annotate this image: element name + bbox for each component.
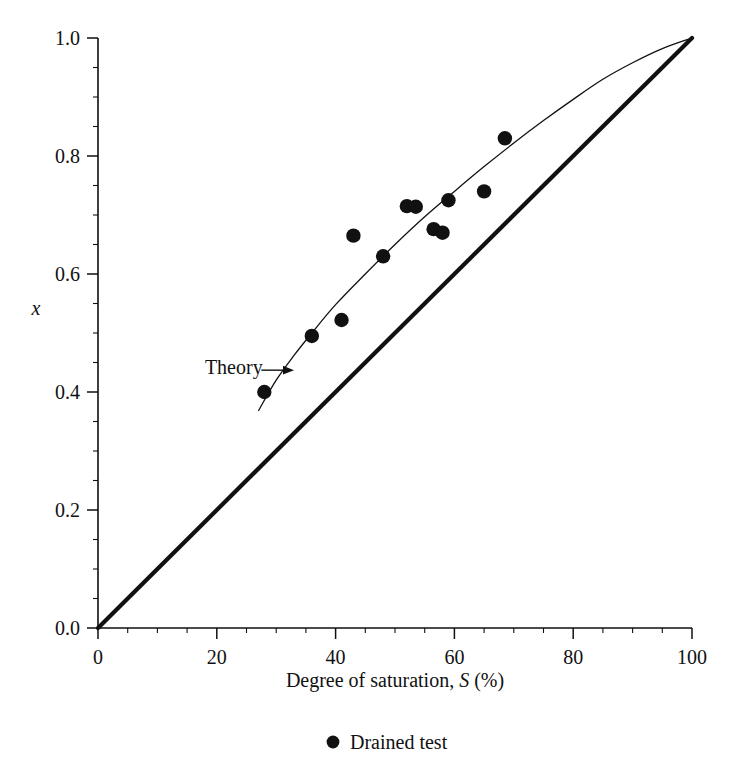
y-tick-label: 0.2 [55, 499, 80, 521]
data-point [305, 329, 319, 343]
theory-annotation-label: Theory [205, 356, 263, 379]
figure-container: 0204060801000.00.20.40.60.81.0 Theory De… [0, 0, 737, 774]
x-tick-label: 100 [677, 646, 707, 668]
data-point [498, 131, 512, 145]
x-axis-title-symbol: S [459, 669, 469, 691]
scatter-points-drained-test [257, 131, 512, 399]
legend: Drained test [327, 731, 448, 753]
data-point [435, 226, 449, 240]
x-tick-label: 80 [563, 646, 583, 668]
x-axis-title: Degree of saturation, S (%) [286, 669, 504, 692]
data-point [346, 228, 360, 242]
y-axis-title: x [31, 297, 41, 319]
x-axis-title-text: Degree of saturation, [286, 669, 459, 692]
y-tick-label: 0.0 [55, 617, 80, 639]
x-tick-label: 60 [444, 646, 464, 668]
x-axis-title-units: (%) [469, 669, 504, 692]
one-to-one-line [98, 38, 692, 628]
y-tick-label: 0.8 [55, 145, 80, 167]
legend-label-drained-test: Drained test [350, 731, 448, 753]
legend-marker-drained-test [327, 736, 340, 749]
y-tick-label: 0.4 [55, 381, 80, 403]
data-series [98, 38, 692, 628]
x-tick-label: 20 [207, 646, 227, 668]
theory-annotation-arrow-head [283, 366, 294, 375]
y-tick-label: 1.0 [55, 27, 80, 49]
scatter-chart: 0204060801000.00.20.40.60.81.0 Theory De… [0, 0, 737, 774]
data-point [334, 313, 348, 327]
y-tick-label: 0.6 [55, 263, 80, 285]
x-tick-label: 0 [93, 646, 103, 668]
data-point [477, 184, 491, 198]
x-tick-label: 40 [326, 646, 346, 668]
annotations: Theory [205, 356, 294, 379]
data-point [409, 200, 423, 214]
theory-curve-line [258, 38, 692, 411]
